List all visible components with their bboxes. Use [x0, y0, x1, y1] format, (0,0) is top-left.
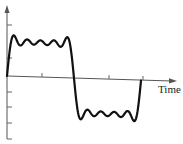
x-axis-label: Time: [158, 83, 181, 95]
x-axis: [7, 76, 172, 81]
square-wave-chart: [0, 0, 183, 144]
fourier-curve: [7, 35, 141, 121]
y-axis-arrow-icon: [5, 5, 10, 13]
